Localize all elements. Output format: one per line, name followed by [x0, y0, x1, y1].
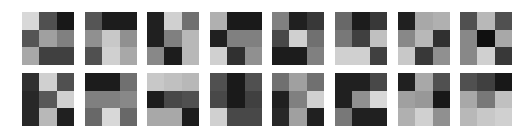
- kernel-cell: [495, 108, 512, 126]
- kernel-cell: [272, 91, 289, 109]
- kernel-cell: [352, 91, 369, 109]
- kernel-cell: [57, 30, 74, 48]
- kernel-cell: [398, 12, 415, 30]
- kernel-cell: [415, 108, 432, 126]
- kernel-cell: [120, 108, 137, 126]
- kernel-cell: [477, 73, 494, 91]
- kernel-cell: [227, 12, 244, 30]
- kernel-cell: [307, 73, 324, 91]
- kernel-cell: [352, 108, 369, 126]
- kernel-cell: [433, 30, 450, 48]
- kernel-cell: [39, 47, 56, 65]
- kernel-cell: [245, 12, 262, 30]
- kernel-cell: [433, 108, 450, 126]
- kernel-cell: [210, 108, 227, 126]
- kernel-cell: [335, 73, 352, 91]
- kernel-cell: [415, 30, 432, 48]
- kernel-cell: [415, 73, 432, 91]
- kernel-cell: [272, 73, 289, 91]
- kernel-cell: [85, 108, 102, 126]
- kernel-cell: [307, 12, 324, 30]
- kernel-cell: [495, 12, 512, 30]
- kernel-cell: [460, 91, 477, 109]
- kernel-cell: [164, 108, 181, 126]
- kernel-filter-4: [210, 12, 262, 65]
- kernel-cell: [227, 91, 244, 109]
- kernel-cell: [210, 47, 227, 65]
- kernel-cell: [120, 91, 137, 109]
- kernel-cell: [398, 47, 415, 65]
- kernel-cell: [227, 47, 244, 65]
- kernel-cell: [227, 73, 244, 91]
- kernel-cell: [210, 91, 227, 109]
- kernel-cell: [415, 12, 432, 30]
- kernel-filter-6: [335, 12, 387, 65]
- kernel-cell: [57, 91, 74, 109]
- kernel-cell: [289, 47, 306, 65]
- kernel-cell: [210, 12, 227, 30]
- kernel-cell: [85, 12, 102, 30]
- kernel-cell: [398, 73, 415, 91]
- kernel-cell: [335, 108, 352, 126]
- kernel-cell: [477, 91, 494, 109]
- kernel-cell: [335, 91, 352, 109]
- kernel-cell: [398, 30, 415, 48]
- kernel-filter-1: [22, 12, 74, 65]
- kernel-cell: [147, 73, 164, 91]
- kernel-cell: [335, 12, 352, 30]
- kernel-cell: [182, 91, 199, 109]
- kernel-cell: [120, 73, 137, 91]
- kernel-cell: [307, 47, 324, 65]
- kernel-filter-7: [398, 12, 450, 65]
- kernel-cell: [289, 12, 306, 30]
- kernel-cell: [335, 47, 352, 65]
- kernel-cell: [370, 108, 387, 126]
- kernel-cell: [245, 91, 262, 109]
- kernel-filter-12: [210, 73, 262, 126]
- kernel-cell: [477, 47, 494, 65]
- kernel-cell: [370, 30, 387, 48]
- kernel-cell: [102, 12, 119, 30]
- kernel-cell: [289, 91, 306, 109]
- kernel-cell: [102, 108, 119, 126]
- kernel-cell: [85, 47, 102, 65]
- kernel-cell: [102, 30, 119, 48]
- kernel-cell: [352, 12, 369, 30]
- kernel-cell: [495, 73, 512, 91]
- kernel-cell: [147, 30, 164, 48]
- kernel-cell: [57, 73, 74, 91]
- kernel-cell: [164, 47, 181, 65]
- kernel-cell: [495, 91, 512, 109]
- kernel-cell: [460, 30, 477, 48]
- kernel-filter-2: [85, 12, 137, 65]
- kernel-cell: [433, 73, 450, 91]
- kernel-cell: [102, 73, 119, 91]
- kernel-cell: [307, 30, 324, 48]
- kernel-cell: [147, 91, 164, 109]
- kernel-cell: [307, 108, 324, 126]
- kernel-cell: [460, 12, 477, 30]
- kernel-cell: [182, 73, 199, 91]
- kernel-cell: [433, 12, 450, 30]
- kernel-cell: [289, 73, 306, 91]
- kernel-filter-14: [335, 73, 387, 126]
- kernel-cell: [147, 47, 164, 65]
- kernel-cell: [415, 91, 432, 109]
- kernel-cell: [495, 47, 512, 65]
- kernel-cell: [272, 108, 289, 126]
- kernel-cell: [85, 30, 102, 48]
- kernel-cell: [39, 108, 56, 126]
- kernel-cell: [164, 12, 181, 30]
- kernel-cell: [182, 30, 199, 48]
- kernel-cell: [398, 108, 415, 126]
- kernel-cell: [289, 108, 306, 126]
- kernel-cell: [164, 91, 181, 109]
- kernel-cell: [245, 30, 262, 48]
- kernel-cell: [460, 73, 477, 91]
- kernel-cell: [57, 12, 74, 30]
- kernel-cell: [370, 12, 387, 30]
- kernel-cell: [182, 47, 199, 65]
- kernel-filter-9: [22, 73, 74, 126]
- kernel-cell: [227, 30, 244, 48]
- kernel-cell: [39, 73, 56, 91]
